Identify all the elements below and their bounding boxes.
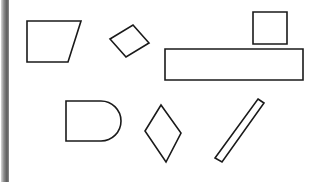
shape-slanted-bar [215,99,264,162]
shape-long-horizontal-rectangle [165,49,303,80]
shape-trapezoid [27,21,81,62]
shape-scene-canvas [0,0,317,182]
shape-layer [0,0,317,182]
shape-rounded-rectangle [66,101,121,141]
shape-square [253,12,287,44]
shape-rhombus [145,105,181,162]
shape-small-rotated-rectangle [110,25,149,57]
